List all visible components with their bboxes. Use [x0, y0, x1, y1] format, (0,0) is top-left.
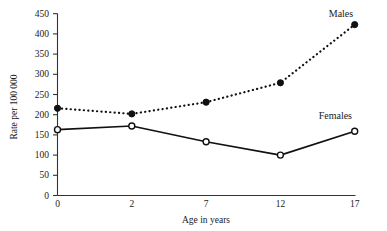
x-tick-label: 0 — [55, 199, 60, 209]
data-point — [352, 128, 358, 134]
data-point — [277, 152, 283, 158]
data-point — [352, 22, 358, 28]
y-tick-label: 400 — [35, 29, 50, 39]
series-label-males: Males — [329, 8, 354, 19]
chart-canvas: Rate per 100 000 0 50 100 150 200 250 30… — [0, 0, 387, 231]
y-tick-label: 0 — [44, 191, 49, 201]
data-point — [277, 80, 283, 86]
y-tick-label: 350 — [35, 49, 50, 59]
x-tick-label: 17 — [350, 199, 360, 209]
x-axis-title: Age in years — [182, 215, 230, 225]
x-tick-label: 7 — [204, 199, 209, 209]
y-tick-label: 450 — [35, 9, 50, 19]
data-point — [203, 139, 209, 145]
data-point — [203, 99, 209, 105]
y-tick-label: 100 — [35, 150, 50, 160]
data-point — [54, 105, 60, 111]
x-tick-label: 12 — [276, 199, 286, 209]
y-tick-label: 50 — [40, 170, 50, 180]
y-tick-label: 250 — [35, 90, 50, 100]
data-point — [55, 127, 61, 133]
y-tick-label: 300 — [35, 69, 50, 79]
y-tick-label: 200 — [35, 110, 50, 120]
y-axis-title: Rate per 100 000 — [9, 74, 19, 139]
series-label-females: Females — [319, 110, 352, 121]
series-females: Females — [55, 110, 358, 158]
x-axis-tick-labels: 0 2 7 12 17 — [55, 199, 360, 209]
males-markers — [54, 22, 357, 117]
mortality-rate-line-chart: Rate per 100 000 0 50 100 150 200 250 30… — [0, 0, 387, 231]
y-axis-ticks — [53, 14, 58, 196]
data-point — [129, 111, 135, 117]
y-tick-label: 150 — [35, 130, 50, 140]
x-tick-label: 2 — [129, 199, 134, 209]
data-point — [129, 123, 135, 129]
series-males: Males — [54, 8, 357, 117]
y-axis-tick-labels: 0 50 100 150 200 250 300 350 400 450 — [35, 9, 50, 201]
